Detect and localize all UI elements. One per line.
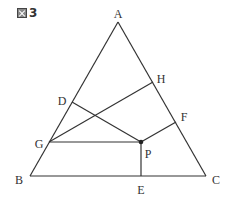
point-p-dot <box>139 140 144 145</box>
segments-group <box>30 22 206 176</box>
label-point-c: C <box>212 173 220 187</box>
label-point-g: G <box>35 137 44 151</box>
label-point-e: E <box>137 183 144 197</box>
segment-pf <box>141 122 176 142</box>
triangle-diagram: ABCDEFGHP <box>0 0 233 202</box>
label-point-h: H <box>157 72 166 86</box>
labels-group: ABCDEFGHP <box>15 7 220 197</box>
label-point-b: B <box>15 173 23 187</box>
label-point-p: P <box>145 147 152 161</box>
segment-ab <box>30 22 118 176</box>
segment-gh <box>49 82 153 142</box>
segment-dp <box>72 102 141 142</box>
label-point-d: D <box>58 94 67 108</box>
label-point-f: F <box>181 110 188 124</box>
segment-ca <box>118 22 206 176</box>
label-point-a: A <box>114 7 123 21</box>
